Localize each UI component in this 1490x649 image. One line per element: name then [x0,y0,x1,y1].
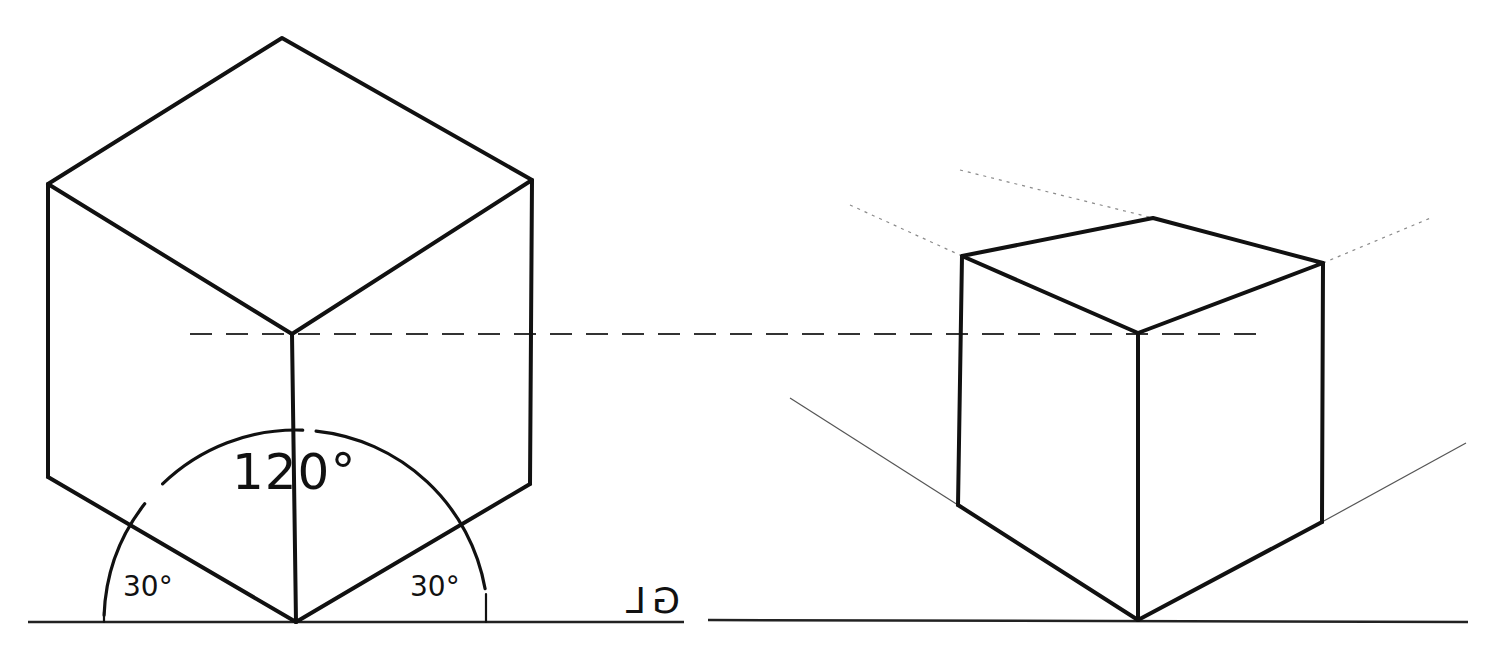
perspective-top-face [962,218,1323,333]
construction-line-lower-right [1322,443,1466,522]
construction-line-upper-left [850,205,962,256]
isometric-top-face [48,38,532,334]
ground-line-label-text: GL [620,583,680,619]
perspective-bottom-left-edge [958,505,1138,620]
ground-line-label: GL [620,583,680,619]
construction-line-upper-right [1323,217,1433,263]
angle-label-30-left: 30° [123,573,173,601]
cube-drawing-canvas [0,0,1490,649]
isometric-right-vertical-edge [530,180,532,484]
perspective-bottom-right-edge [1138,522,1322,620]
perspective-left-vertical-edge [958,256,962,505]
ground-line-right [708,620,1468,622]
angle-label-120: 120° [232,447,356,497]
perspective-right-vertical-edge [1322,263,1323,522]
construction-line-lower-left [790,398,958,505]
construction-line-back-top [960,170,1153,218]
isometric-cube [48,38,532,622]
perspective-cube [790,170,1466,620]
angle-label-30-right: 30° [410,573,460,601]
